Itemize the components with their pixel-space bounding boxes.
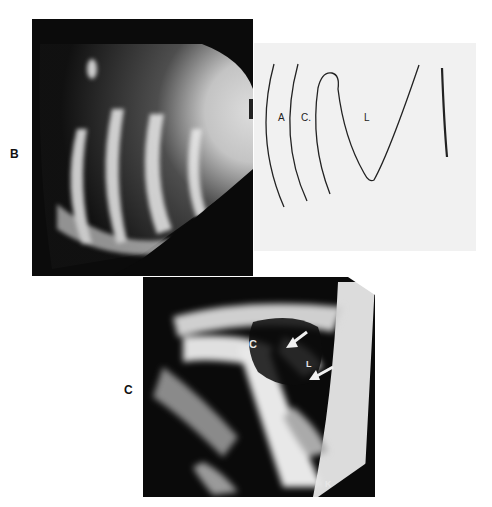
diagram-label-c: C. <box>301 112 311 123</box>
panel-b-schematic-diagram: A C. L <box>254 43 476 251</box>
image-label-k: K <box>325 479 332 489</box>
diagram-label-a: A <box>278 112 285 123</box>
panel-label-c: C <box>124 383 133 397</box>
panel-label-b: B <box>10 147 19 161</box>
image-label-c: C <box>249 338 257 350</box>
panel-c-ultrasound-image: C L K <box>143 277 375 497</box>
panel-b-ultrasound-image <box>32 19 253 276</box>
image-label-l: L <box>306 359 312 369</box>
diagram-label-l: L <box>364 112 370 123</box>
